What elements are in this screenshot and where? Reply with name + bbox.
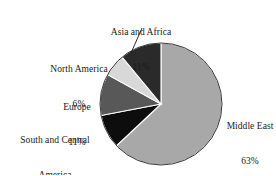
pie-label-south-and-central-america-name-line2: America [2, 170, 108, 176]
pie-chart-figure: Asia and Africa 11% North America 6% Eur… [0, 0, 276, 175]
pie-label-middle-east: Middle East 63% [224, 98, 276, 175]
pie-label-middle-east-value: 63% [224, 156, 276, 168]
pie-label-south-and-central-america-name-line1: South and Central [2, 135, 108, 147]
pie-label-north-america-name: North America [33, 64, 125, 76]
pie-label-asia-and-africa-name: Asia and Africa [86, 27, 196, 39]
pie-label-south-and-central-america: South and Central America 9% [2, 112, 108, 175]
pie-label-middle-east-name: Middle East [224, 121, 276, 133]
